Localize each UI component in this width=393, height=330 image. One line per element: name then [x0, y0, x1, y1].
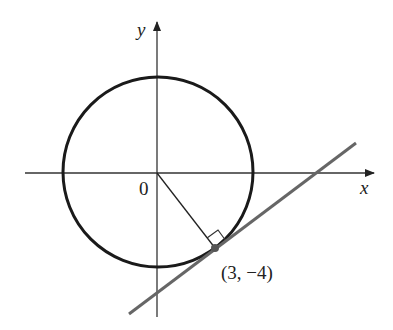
tangent-point-label: (3, −4) [221, 262, 273, 284]
y-axis-label: y [135, 19, 146, 40]
figure-canvas: y x 0 (3, −4) [0, 0, 393, 330]
circle-tangent-diagram: y x 0 (3, −4) [0, 0, 393, 330]
radius-segment [157, 173, 215, 248]
tangent-point-dot [211, 244, 219, 252]
tangent-line [129, 143, 356, 314]
origin-label: 0 [139, 178, 149, 199]
x-axis-label: x [359, 177, 369, 198]
